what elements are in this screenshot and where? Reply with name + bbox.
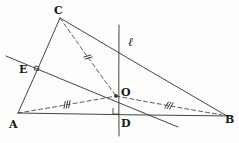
point-label-O: O xyxy=(121,87,131,98)
point-label-B: B xyxy=(225,114,234,125)
point-label-E: E xyxy=(19,64,27,75)
dashed-segments-group xyxy=(18,18,222,115)
point-markers-group xyxy=(114,94,118,98)
point-label-A: A xyxy=(9,119,18,130)
point-label-C: C xyxy=(54,5,63,16)
solid-segments-group xyxy=(6,18,232,136)
geometry-figure: A B C D E O ℓ xyxy=(0,0,239,143)
point-label-D: D xyxy=(121,118,131,129)
diagram-canvas xyxy=(0,0,239,143)
line-label-l: ℓ xyxy=(128,36,133,48)
